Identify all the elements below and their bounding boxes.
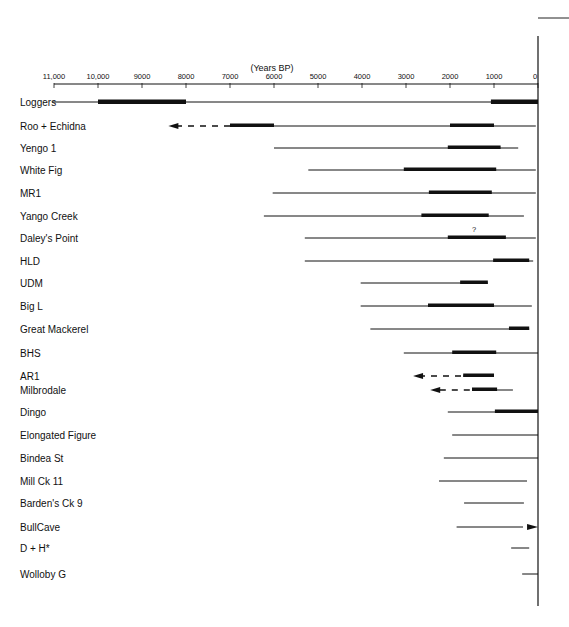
tick-label: 11,000 [43, 72, 65, 81]
dense-range-bar [404, 168, 496, 172]
site-row: HLD [20, 256, 533, 267]
site-row: Barden's Ck 9 [20, 498, 524, 509]
site-label: Dingo [20, 407, 47, 418]
site-label: Loggers [20, 97, 56, 108]
tick-label: 10,000 [87, 72, 110, 81]
tick-label: 9000 [134, 72, 151, 81]
dense-range-bar [450, 124, 494, 128]
site-row: MR1 [20, 188, 536, 199]
arrow-right-icon [527, 524, 538, 530]
site-label: Great Mackerel [20, 324, 88, 335]
site-row: BullCave [20, 522, 538, 533]
dense-range-bar [463, 374, 494, 378]
dense-range-bar [509, 327, 529, 331]
site-row: Loggers [20, 97, 538, 108]
site-row: Bindea St [20, 453, 538, 464]
dense-range-bar [452, 351, 496, 355]
site-row: UDM [20, 278, 488, 289]
site-row: Daley's Point? [20, 225, 536, 244]
site-row: Milbrodale [20, 385, 513, 396]
site-label: Elongated Figure [20, 430, 97, 441]
site-row: Roo + Echidna [20, 121, 536, 132]
site-row: Wolloby G [20, 569, 538, 580]
x-axis: (Years BP)11,00010,000900080007000600050… [43, 36, 538, 606]
site-label: HLD [20, 256, 40, 267]
site-label: Milbrodale [20, 385, 67, 396]
tick-label: 1000 [486, 72, 503, 81]
arrow-left-icon [430, 387, 440, 393]
tick-label: 4000 [354, 72, 371, 81]
site-row: Dingo [20, 407, 538, 418]
site-label: Yengo 1 [20, 143, 57, 154]
site-label: Roo + Echidna [20, 121, 86, 132]
arrow-left-icon [168, 123, 178, 129]
site-label: Yango Creek [20, 211, 79, 222]
site-rows: LoggersRoo + EchidnaYengo 1White FigMR1Y… [20, 97, 538, 580]
tick-label: 7000 [222, 72, 239, 81]
dense-range-bar [460, 281, 488, 285]
site-row: AR1 [20, 371, 494, 382]
site-row: Elongated Figure [20, 430, 538, 441]
dense-range-bar [448, 236, 506, 240]
site-row: Yengo 1 [20, 143, 518, 154]
timeline-chart: (Years BP)11,00010,000900080007000600050… [0, 0, 569, 627]
site-label: UDM [20, 278, 43, 289]
site-label: Big L [20, 301, 43, 312]
dense-range-bar [230, 124, 274, 128]
dense-range-bar [495, 410, 538, 414]
dense-range-bar [493, 259, 529, 263]
dense-range-bar [428, 304, 494, 308]
site-label: Wolloby G [20, 569, 66, 580]
uncertainty-mark: ? [472, 225, 476, 234]
site-label: Daley's Point [20, 233, 78, 244]
site-label: BHS [20, 348, 41, 359]
tick-label: 3000 [398, 72, 415, 81]
tick-label: 2000 [442, 72, 459, 81]
site-label: Bindea St [20, 453, 64, 464]
site-label: White Fig [20, 165, 62, 176]
tick-label: 0 [533, 72, 537, 81]
site-row: D + H* [20, 543, 529, 554]
site-row: Great Mackerel [20, 324, 529, 335]
dense-range-bar [448, 146, 501, 150]
site-label: BullCave [20, 522, 60, 533]
tick-label: 6000 [266, 72, 283, 81]
site-label: AR1 [20, 371, 40, 382]
arrow-left-icon [413, 373, 423, 379]
tick-label: 5000 [310, 72, 327, 81]
dense-range-bar [98, 100, 186, 105]
dense-range-bar [472, 388, 497, 392]
site-label: MR1 [20, 188, 42, 199]
site-label: D + H* [20, 543, 50, 554]
site-row: BHS [20, 348, 538, 359]
site-label: Barden's Ck 9 [20, 498, 83, 509]
site-row: Mill Ck 11 [20, 476, 527, 487]
site-label: Mill Ck 11 [20, 476, 64, 487]
dense-range-bar [421, 214, 488, 218]
site-row: White Fig [20, 165, 536, 176]
dense-range-bar [429, 191, 492, 195]
tick-label: 8000 [178, 72, 195, 81]
site-row: Yango Creek [20, 211, 524, 222]
site-row: Big L [20, 301, 532, 312]
dense-range-bar [491, 100, 538, 105]
